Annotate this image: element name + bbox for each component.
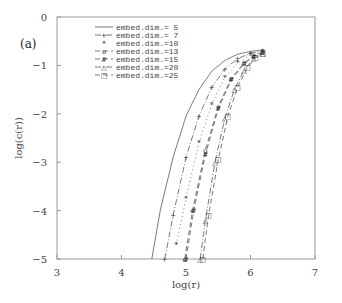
series-marker: # <box>183 256 189 264</box>
series-marker: + <box>170 212 176 220</box>
legend-marker: △ <box>101 64 107 72</box>
series-marker: * <box>175 241 179 249</box>
legend-marker: + <box>101 32 107 40</box>
series-marker: # <box>202 151 208 159</box>
legend-entry: embed.dim.=25 <box>116 71 179 80</box>
series-marker: + <box>196 113 202 121</box>
series-line <box>165 51 263 259</box>
x-tick-label: 6 <box>247 267 253 278</box>
y-tick-label: −3 <box>32 157 47 168</box>
x-tick-label: 3 <box>54 267 60 278</box>
panel-label: (a) <box>20 37 37 51</box>
series-3: ******** <box>175 48 265 249</box>
series-marker: * <box>210 101 214 109</box>
series-marker: □ <box>199 256 206 264</box>
series-marker: + <box>162 256 168 264</box>
y-tick-label: −5 <box>32 254 47 265</box>
legend-marker: o <box>102 48 106 56</box>
series-marker: + <box>222 66 228 74</box>
legend-marker: □ <box>101 72 108 80</box>
series-marker: □ <box>259 50 266 58</box>
y-axis-label: log(c(r)) <box>13 117 24 159</box>
series-marker: □ <box>234 84 241 92</box>
y-tick-label: −2 <box>32 109 47 120</box>
y-tick-label: −1 <box>32 60 47 71</box>
series-marker: □ <box>205 212 212 220</box>
y-tick-label: 0 <box>41 12 47 23</box>
series-marker: + <box>209 84 215 92</box>
legend: embed.dim.= 5+embed.dim.= 7*embed.dim.=1… <box>95 23 179 80</box>
series-marker: □ <box>225 113 232 121</box>
plot-border <box>57 17 315 259</box>
series-marker: □ <box>215 156 222 164</box>
x-tick-label: 4 <box>118 267 124 278</box>
series-marker: □ <box>252 54 259 62</box>
series-marker: + <box>183 154 189 162</box>
series-marker: # <box>215 105 221 113</box>
x-axis-label: log(r) <box>172 279 200 290</box>
series-marker: □ <box>244 64 251 72</box>
series-marker: * <box>184 195 188 203</box>
series-line <box>185 52 263 259</box>
correlation-integral-chart: (a) 345670−1−2−3−4−5 +++++++++********oo… <box>0 0 342 303</box>
y-tick-label: −4 <box>32 206 47 217</box>
legend-marker: * <box>102 40 106 48</box>
series-marker: * <box>197 139 201 147</box>
x-tick-label: 5 <box>183 267 189 278</box>
legend-marker: # <box>101 56 107 64</box>
series-line <box>186 53 263 259</box>
series-marker: # <box>191 207 197 215</box>
x-tick-label: 7 <box>312 267 318 278</box>
plot-frame <box>57 17 315 259</box>
series-marker: * <box>223 74 227 82</box>
series-marker: * <box>236 59 240 67</box>
